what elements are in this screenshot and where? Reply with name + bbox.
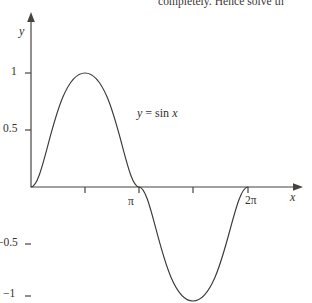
y-axis-label: y	[19, 24, 24, 39]
y-tick-label-neg-0-5: −0.5	[0, 236, 18, 248]
y-axis-ticks	[25, 73, 31, 296]
y-tick-label-neg-1: −1	[3, 287, 15, 299]
x-tick-label-2pi: 2π	[245, 194, 257, 206]
figure-root: completely. Hence solve th	[0, 0, 312, 303]
curve-equation-argument: x	[169, 106, 177, 120]
sine-curve	[31, 73, 85, 187]
y-axis	[27, 12, 35, 187]
curve-equation-equals: =	[142, 106, 155, 120]
curve-equation-label: y = sin x	[137, 106, 177, 121]
x-axis-ticks	[85, 187, 248, 193]
x-axis	[31, 183, 303, 191]
x-axis-label: x	[290, 190, 295, 205]
x-tick-label-pi: π	[128, 195, 134, 207]
y-tick-label-0-5: 0.5	[3, 122, 17, 134]
curve-equation-function: sin	[155, 106, 169, 120]
y-tick-label-1: 1	[11, 65, 17, 77]
sine-plot-svg	[0, 0, 312, 303]
